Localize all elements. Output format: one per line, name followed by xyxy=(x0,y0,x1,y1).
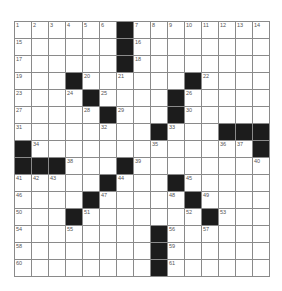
grid-cell[interactable] xyxy=(151,56,168,73)
grid-cell[interactable]: 12 xyxy=(219,22,236,39)
grid-cell[interactable] xyxy=(66,124,83,141)
grid-cell[interactable] xyxy=(83,56,100,73)
grid-cell[interactable] xyxy=(185,124,202,141)
grid-cell[interactable] xyxy=(185,39,202,56)
grid-cell[interactable] xyxy=(151,209,168,226)
grid-cell[interactable] xyxy=(49,226,66,243)
grid-cell[interactable] xyxy=(202,141,219,158)
grid-cell[interactable] xyxy=(219,175,236,192)
grid-cell[interactable]: 47 xyxy=(100,192,117,209)
grid-cell[interactable] xyxy=(151,192,168,209)
grid-cell[interactable] xyxy=(32,243,49,260)
grid-cell[interactable] xyxy=(151,90,168,107)
grid-cell[interactable]: 33 xyxy=(168,124,185,141)
grid-cell[interactable] xyxy=(236,175,253,192)
grid-cell[interactable] xyxy=(185,260,202,277)
grid-cell[interactable] xyxy=(185,226,202,243)
grid-cell[interactable]: 41 xyxy=(15,175,32,192)
grid-cell[interactable] xyxy=(83,243,100,260)
grid-cell[interactable] xyxy=(83,158,100,175)
grid-cell[interactable] xyxy=(32,192,49,209)
grid-cell[interactable]: 61 xyxy=(168,260,185,277)
grid-cell[interactable] xyxy=(185,243,202,260)
grid-cell[interactable] xyxy=(236,209,253,226)
grid-cell[interactable]: 52 xyxy=(185,209,202,226)
grid-cell[interactable]: 17 xyxy=(15,56,32,73)
grid-cell[interactable] xyxy=(253,260,270,277)
grid-cell[interactable] xyxy=(219,243,236,260)
grid-cell[interactable]: 5 xyxy=(83,22,100,39)
grid-cell[interactable] xyxy=(83,226,100,243)
grid-cell[interactable]: 59 xyxy=(168,243,185,260)
grid-cell[interactable] xyxy=(66,39,83,56)
grid-cell[interactable] xyxy=(253,56,270,73)
grid-cell[interactable] xyxy=(49,260,66,277)
grid-cell[interactable] xyxy=(151,39,168,56)
grid-cell[interactable]: 28 xyxy=(83,107,100,124)
grid-cell[interactable]: 9 xyxy=(168,22,185,39)
grid-cell[interactable]: 54 xyxy=(15,226,32,243)
grid-cell[interactable] xyxy=(168,209,185,226)
grid-cell[interactable] xyxy=(83,260,100,277)
grid-cell[interactable] xyxy=(134,175,151,192)
grid-cell[interactable] xyxy=(236,243,253,260)
grid-cell[interactable] xyxy=(32,124,49,141)
grid-cell[interactable] xyxy=(32,209,49,226)
grid-cell[interactable] xyxy=(219,107,236,124)
grid-cell[interactable]: 35 xyxy=(151,141,168,158)
grid-cell[interactable] xyxy=(134,243,151,260)
grid-cell[interactable]: 4 xyxy=(66,22,83,39)
grid-cell[interactable]: 26 xyxy=(185,90,202,107)
grid-cell[interactable] xyxy=(253,192,270,209)
grid-cell[interactable] xyxy=(66,141,83,158)
grid-cell[interactable] xyxy=(168,56,185,73)
grid-cell[interactable] xyxy=(66,192,83,209)
grid-cell[interactable] xyxy=(134,226,151,243)
grid-cell[interactable] xyxy=(253,243,270,260)
grid-cell[interactable] xyxy=(100,260,117,277)
grid-cell[interactable] xyxy=(202,124,219,141)
grid-cell[interactable] xyxy=(236,73,253,90)
grid-cell[interactable] xyxy=(83,141,100,158)
grid-cell[interactable]: 29 xyxy=(117,107,134,124)
grid-cell[interactable] xyxy=(151,107,168,124)
grid-cell[interactable] xyxy=(134,260,151,277)
grid-cell[interactable] xyxy=(185,56,202,73)
grid-cell[interactable] xyxy=(202,56,219,73)
grid-cell[interactable]: 14 xyxy=(253,22,270,39)
grid-cell[interactable] xyxy=(202,107,219,124)
grid-cell[interactable]: 11 xyxy=(202,22,219,39)
grid-cell[interactable] xyxy=(100,226,117,243)
grid-cell[interactable]: 43 xyxy=(49,175,66,192)
grid-cell[interactable] xyxy=(117,90,134,107)
grid-cell[interactable] xyxy=(49,243,66,260)
grid-cell[interactable] xyxy=(236,158,253,175)
grid-cell[interactable] xyxy=(236,226,253,243)
grid-cell[interactable] xyxy=(219,260,236,277)
grid-cell[interactable] xyxy=(253,175,270,192)
grid-cell[interactable] xyxy=(117,209,134,226)
grid-cell[interactable] xyxy=(168,73,185,90)
grid-cell[interactable] xyxy=(168,39,185,56)
grid-cell[interactable] xyxy=(49,141,66,158)
grid-cell[interactable]: 2 xyxy=(32,22,49,39)
grid-cell[interactable] xyxy=(202,90,219,107)
grid-cell[interactable] xyxy=(134,124,151,141)
grid-cell[interactable] xyxy=(49,73,66,90)
grid-cell[interactable]: 56 xyxy=(168,226,185,243)
grid-cell[interactable] xyxy=(253,107,270,124)
grid-cell[interactable] xyxy=(66,175,83,192)
grid-cell[interactable] xyxy=(168,141,185,158)
grid-cell[interactable] xyxy=(66,56,83,73)
grid-cell[interactable] xyxy=(83,124,100,141)
grid-cell[interactable] xyxy=(202,175,219,192)
grid-cell[interactable] xyxy=(32,39,49,56)
grid-cell[interactable]: 21 xyxy=(117,73,134,90)
grid-cell[interactable] xyxy=(49,192,66,209)
grid-cell[interactable] xyxy=(185,141,202,158)
grid-cell[interactable] xyxy=(219,158,236,175)
grid-cell[interactable]: 49 xyxy=(202,192,219,209)
grid-cell[interactable]: 50 xyxy=(15,209,32,226)
grid-cell[interactable] xyxy=(219,192,236,209)
grid-cell[interactable] xyxy=(236,56,253,73)
